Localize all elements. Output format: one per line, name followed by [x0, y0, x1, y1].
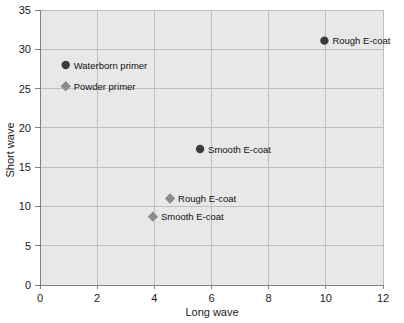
- y-tick-label: 30: [19, 43, 31, 55]
- x-tick-label: 12: [377, 292, 389, 304]
- y-axis-title: Short wave: [4, 122, 16, 177]
- y-tick-label: 10: [19, 200, 31, 212]
- x-tick-label: 2: [94, 292, 100, 304]
- y-tick-label: 35: [19, 4, 31, 16]
- y-tick-label: 25: [19, 83, 31, 95]
- y-tick-label: 15: [19, 161, 31, 173]
- data-point-label: Rough E-coat: [178, 193, 236, 204]
- scatter-chart: 02468101205101520253035 Waterborn primer…: [0, 0, 404, 323]
- data-point-label: Rough E-coat: [332, 35, 390, 46]
- data-point-label: Waterborn primer: [74, 60, 148, 71]
- chart-canvas: 02468101205101520253035 Waterborn primer…: [0, 0, 404, 323]
- data-point-circle: [196, 145, 204, 153]
- data-point-label: Smooth E-coat: [161, 211, 224, 222]
- y-tick-label: 20: [19, 122, 31, 134]
- x-tick-label: 10: [320, 292, 332, 304]
- x-tick-label: 6: [208, 292, 214, 304]
- x-tick-label: 8: [266, 292, 272, 304]
- data-point-label: Powder primer: [74, 81, 136, 92]
- y-tick-label: 0: [25, 279, 31, 291]
- x-axis-title: Long wave: [185, 306, 238, 318]
- x-tick-label: 4: [151, 292, 157, 304]
- data-point-circle: [62, 61, 70, 69]
- x-tick-label: 0: [37, 292, 43, 304]
- y-tick-label: 5: [25, 240, 31, 252]
- data-point-circle: [320, 36, 328, 44]
- data-point-label: Smooth E-coat: [208, 144, 271, 155]
